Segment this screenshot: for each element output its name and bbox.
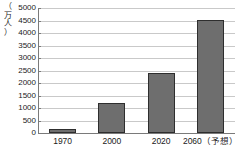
y-axis-tick-label: 1000 bbox=[2, 104, 36, 112]
x-axis-tick-labels: 1970200020202060（予想） bbox=[38, 136, 235, 152]
y-axis-tick-labels: 5000450040003500300025002000150010005000 bbox=[0, 8, 36, 133]
y-axis-tick-label: 0 bbox=[2, 129, 36, 137]
x-axis-tick-label: 2060（予想） bbox=[183, 136, 238, 146]
y-axis-tick-label: 3500 bbox=[2, 42, 36, 50]
y-axis-tick-mark bbox=[38, 8, 41, 9]
gridline bbox=[38, 133, 235, 134]
y-axis-tick-mark bbox=[38, 21, 41, 22]
plot-area bbox=[38, 8, 235, 133]
y-axis-tick-mark bbox=[38, 121, 41, 122]
x-axis-tick-label: 1970 bbox=[53, 136, 72, 146]
y-axis-tick-label: 1500 bbox=[2, 92, 36, 100]
y-axis-tick-label: 4500 bbox=[2, 17, 36, 25]
x-axis-tick-label: 2020 bbox=[152, 136, 171, 146]
bar-chart: （ 万 人 ） 50004500400035003000250020001500… bbox=[0, 0, 245, 156]
y-axis-tick-label: 2500 bbox=[2, 67, 36, 75]
bar bbox=[98, 103, 125, 133]
y-axis-tick-label: 500 bbox=[2, 117, 36, 125]
y-axis-tick-mark bbox=[38, 33, 41, 34]
y-axis-tick-label: 3000 bbox=[2, 54, 36, 62]
gridline bbox=[38, 8, 235, 9]
y-axis-tick-label: 4000 bbox=[2, 29, 36, 37]
bar bbox=[148, 73, 175, 133]
y-axis-tick-mark bbox=[38, 71, 41, 72]
x-axis-tick-label: 2000 bbox=[102, 136, 121, 146]
bar bbox=[49, 129, 76, 133]
y-axis-tick-mark bbox=[38, 108, 41, 109]
y-axis-tick-mark bbox=[38, 96, 41, 97]
y-axis-tick-mark bbox=[38, 58, 41, 59]
y-axis-tick-mark bbox=[38, 46, 41, 47]
bar bbox=[197, 20, 224, 134]
y-axis-tick-label: 2000 bbox=[2, 79, 36, 87]
y-axis-tick-label: 5000 bbox=[2, 4, 36, 12]
y-axis-tick-mark bbox=[38, 133, 41, 134]
y-axis-tick-mark bbox=[38, 83, 41, 84]
